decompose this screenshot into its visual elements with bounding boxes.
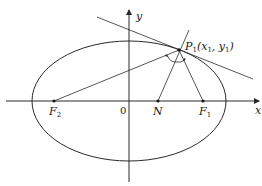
- point-n: [156, 99, 159, 102]
- ellipse-diagram: y x 0 F2 F1 N P1(x1, y1): [0, 0, 262, 186]
- f2-label: F2: [48, 105, 61, 119]
- origin-label: 0: [120, 105, 126, 116]
- p1-label: P1(x1, y1): [184, 40, 234, 54]
- focal-radius-f2: [54, 50, 179, 101]
- point-p1: [177, 48, 181, 52]
- y-axis-label: y: [135, 10, 143, 23]
- f1-label: F1: [198, 105, 211, 119]
- angle-arc-left: [167, 55, 175, 62]
- point-f2: [52, 99, 55, 102]
- x-axis-label: x: [255, 104, 262, 117]
- point-f1: [201, 99, 204, 102]
- n-label: N: [152, 105, 163, 118]
